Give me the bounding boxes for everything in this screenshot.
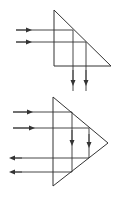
right-angle-prism (54, 10, 111, 66)
right-angle-prism-figure (16, 10, 111, 91)
prism-ray-diagram (0, 0, 121, 199)
porro-prism-figure (12, 97, 108, 186)
porro-prism (53, 97, 108, 186)
incident-ray-1 (16, 30, 73, 91)
inner-ray-path (13, 128, 89, 158)
outer-ray-path (13, 112, 72, 172)
